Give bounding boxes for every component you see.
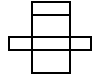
front-face (32, 37, 70, 50)
top-face (32, 15, 70, 37)
right-side-face (70, 37, 91, 50)
bottom-face (32, 50, 70, 73)
left-side-face (9, 37, 32, 50)
box-net-diagram (0, 0, 100, 80)
top-lid-flap (32, 2, 70, 15)
